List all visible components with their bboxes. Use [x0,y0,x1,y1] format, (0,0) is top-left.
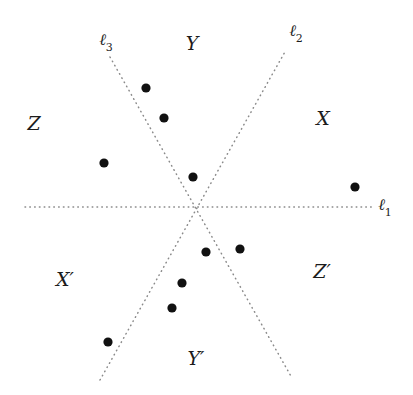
line-label-glyph: ℓ [99,30,106,49]
data-point [141,83,150,92]
region-label-Xp: X′ [56,270,74,289]
data-point [159,113,168,122]
region-label-Zp: Z′ [313,262,331,281]
line-l2 [100,50,286,380]
region-label-Y: Y [186,34,199,53]
data-point [103,337,112,346]
line-label-l2: ℓ2 [289,23,303,42]
line-label-glyph: ℓ [378,195,385,214]
line-label-subscript: 2 [296,33,303,46]
data-point [99,158,108,167]
region-label-X: X [316,109,330,128]
geometry-diagram: YZXX′Z′Y′ ℓ1ℓ2ℓ3 [0,0,413,395]
region-label-Z: Z [27,114,40,133]
data-point [235,244,244,253]
data-point [350,182,359,191]
line-label-subscript: 3 [106,42,113,55]
line-label-l1: ℓ1 [378,197,392,216]
line-l3 [110,57,292,378]
region-label-Yp: Y′ [188,349,205,368]
data-point [167,303,176,312]
data-point [188,172,197,181]
figure-canvas [0,0,413,395]
data-point [177,278,186,287]
data-point [201,247,210,256]
line-label-subscript: 1 [385,207,392,220]
line-label-glyph: ℓ [289,21,296,40]
dotted-lines-group [25,50,372,380]
line-label-l3: ℓ3 [99,32,113,51]
